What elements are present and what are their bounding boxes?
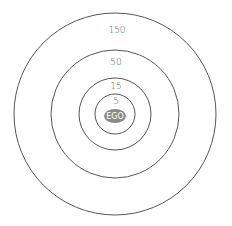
dunbar-circles-diagram: 150 50 15 5 EGO bbox=[0, 0, 232, 226]
ring-label-150: 150 bbox=[108, 25, 125, 35]
ring-label-15: 15 bbox=[110, 81, 121, 91]
ring-label-5: 5 bbox=[113, 96, 119, 106]
ego-label: EGO bbox=[106, 112, 124, 121]
ring-label-50: 50 bbox=[110, 57, 121, 67]
